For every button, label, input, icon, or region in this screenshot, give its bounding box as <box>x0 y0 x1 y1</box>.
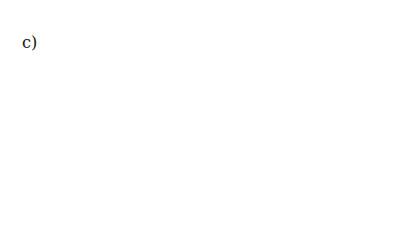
fef-area-box <box>53 15 184 70</box>
fef-module-outline <box>53 15 184 70</box>
fef-module-frame <box>53 15 184 70</box>
fef-module <box>53 14 184 70</box>
fef-frame-visible <box>53 15 183 70</box>
fef-frame-drawn <box>53 15 184 70</box>
fef-outer-box <box>53 14 184 70</box>
fef-box <box>53 14 183 70</box>
fef-panel <box>53 15 184 70</box>
fef-box-border <box>53 14 184 70</box>
fef-area <box>53 15 184 70</box>
fef-boundary <box>53 15 184 70</box>
fef-enclosure <box>53 15 183 70</box>
fef-module-box <box>53 14 184 70</box>
fef-rect <box>53 15 184 70</box>
fef-frame <box>53 14 184 70</box>
fef-outline <box>53 15 184 70</box>
fef-frame-main <box>53 15 183 70</box>
fef-border <box>53 15 184 70</box>
fef-container <box>53 14 184 70</box>
fef-region-box <box>53 15 184 70</box>
neural-circuit-diagram <box>0 0 414 228</box>
fef-box-outline <box>53 14 184 70</box>
fef-rounded-box <box>53 15 184 70</box>
